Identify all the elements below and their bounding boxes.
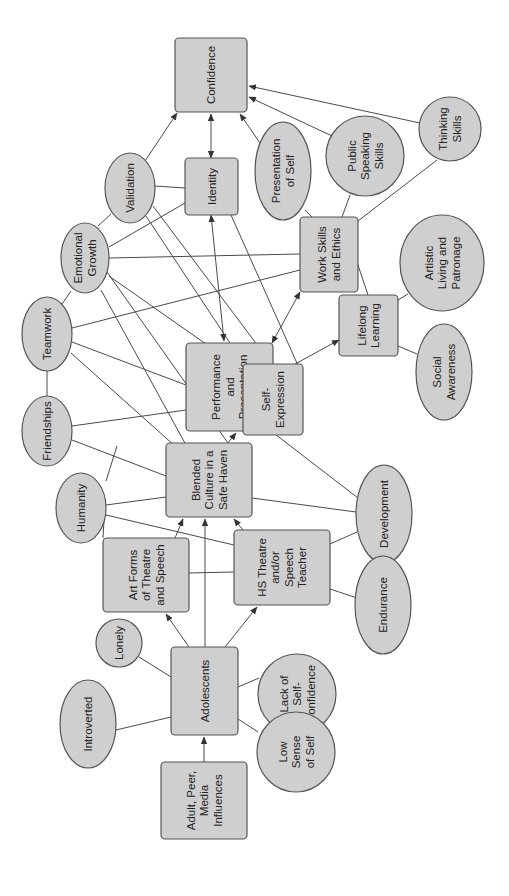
connector-edge bbox=[71, 353, 185, 455]
node-label: Teamwork bbox=[41, 308, 53, 361]
node-label: LifelongLearning bbox=[356, 303, 382, 348]
nodes-layer: ConfidenceIdentityValidationEmotionalGro… bbox=[22, 38, 484, 839]
connector-edge bbox=[330, 589, 357, 598]
node-blended-culture: BlendedCulture in aSafe Haven bbox=[166, 443, 252, 517]
node-self-expression: Self-Expression bbox=[243, 364, 303, 435]
node-art-forms: Art Formsof Theatreand Speech bbox=[103, 538, 189, 612]
node-introverted: Introverted bbox=[60, 680, 116, 768]
node-friendships: Friendships bbox=[22, 396, 72, 466]
connector-edge bbox=[139, 657, 171, 677]
node-label: Work Skillsand Ethics bbox=[316, 226, 342, 283]
connector-edge bbox=[330, 532, 357, 544]
node-validation: Validation bbox=[105, 153, 155, 223]
node-teamwork: Teamwork bbox=[22, 297, 72, 371]
node-emotional-growth: EmotionalGrowth bbox=[61, 223, 109, 293]
arrow-edge bbox=[225, 607, 257, 647]
node-label: Art Formsof Theatreand Speech bbox=[127, 544, 166, 605]
node-influences: Adult, Peer,MediaInfluences bbox=[161, 762, 247, 839]
connector-edge bbox=[72, 440, 166, 476]
node-identity: Identity bbox=[185, 158, 238, 215]
node-lifelong-learning: LifelongLearning bbox=[339, 295, 398, 356]
arrow-edge bbox=[234, 519, 243, 530]
node-hs-teacher: HS Theatreand/orSpeechTeacher bbox=[234, 530, 330, 605]
node-presentation-of-self: Presentationof Self bbox=[255, 122, 311, 220]
node-humanity: Humanity bbox=[56, 473, 106, 543]
arrow-edge bbox=[175, 519, 183, 538]
node-label: Development bbox=[378, 479, 390, 548]
connector-edge bbox=[342, 195, 350, 217]
connector-edge bbox=[252, 498, 356, 512]
node-label: Friendships bbox=[41, 401, 53, 461]
concept-diagram: ConfidenceIdentityValidationEmotionalGro… bbox=[0, 0, 509, 896]
arrow-edge bbox=[166, 614, 189, 647]
connector-edge bbox=[109, 254, 300, 258]
node-label: Endurance bbox=[377, 577, 389, 633]
connector-edge bbox=[189, 572, 234, 573]
node-social-awareness: SocialAwareness bbox=[416, 324, 472, 420]
node-adolescents: Adolescents bbox=[171, 647, 238, 735]
arrow-edge bbox=[240, 114, 260, 143]
arrow-edge bbox=[228, 433, 236, 443]
node-public-speaking: PublicSpeakingSkills bbox=[326, 116, 404, 196]
node-development: Development bbox=[356, 465, 412, 563]
node-low-sense: LowSenseof Self bbox=[257, 712, 335, 792]
arrow-edge bbox=[211, 215, 224, 341]
node-label: Validation bbox=[124, 163, 136, 213]
node-lonely: Lonely bbox=[96, 619, 142, 667]
connector-edge bbox=[72, 410, 186, 426]
connector-edge bbox=[155, 186, 185, 188]
node-label: Confidence bbox=[205, 46, 217, 104]
arrow-edge bbox=[249, 86, 420, 123]
node-label: EmotionalGrowth bbox=[72, 232, 98, 283]
node-thinking-skills: ThinkingSkills bbox=[419, 97, 481, 161]
connector-edge bbox=[106, 446, 117, 481]
arrow-edge bbox=[145, 113, 177, 161]
node-label: Identity bbox=[206, 168, 218, 205]
node-confidence: Confidence bbox=[175, 38, 247, 112]
connector-edge bbox=[305, 210, 312, 217]
connector-edge bbox=[101, 290, 186, 445]
node-label: BlendedCulture in aSafe Haven bbox=[190, 450, 229, 510]
connector-edge bbox=[238, 678, 259, 687]
connector-edge bbox=[116, 717, 171, 730]
connector-edge bbox=[62, 291, 71, 304]
connector-edge bbox=[98, 214, 111, 226]
node-label: Humanity bbox=[75, 483, 87, 532]
connector-edge bbox=[106, 497, 166, 505]
node-label: Adolescents bbox=[199, 659, 211, 722]
node-label: Lonely bbox=[113, 626, 125, 660]
node-label: Introverted bbox=[82, 697, 94, 752]
connector-edge bbox=[72, 342, 186, 385]
connector-edge bbox=[398, 346, 417, 354]
connector-edge bbox=[398, 294, 408, 300]
node-artistic-living: ArtisticLiving andPatronage bbox=[400, 215, 484, 311]
connector-edge bbox=[238, 719, 258, 732]
connector-edge bbox=[271, 431, 358, 498]
node-endurance: Endurance bbox=[355, 556, 411, 654]
node-work-skills: Work Skillsand Ethics bbox=[300, 217, 358, 292]
